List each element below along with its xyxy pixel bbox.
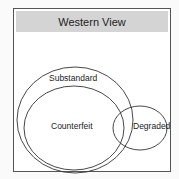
venn-diagram	[0, 0, 179, 179]
label-degraded: Degraded	[133, 121, 170, 131]
label-substandard: Substandard	[49, 73, 97, 83]
label-counterfeit: Counterfeit	[51, 121, 93, 131]
